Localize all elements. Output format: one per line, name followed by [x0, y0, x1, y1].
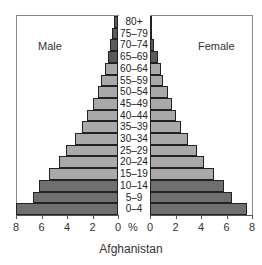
male-tick	[16, 215, 17, 219]
female-bar	[150, 51, 158, 63]
female-bar	[150, 156, 204, 168]
male-tick	[42, 215, 43, 219]
female-bar	[150, 180, 224, 192]
female-tick-label: 2	[168, 221, 184, 233]
male-tick-label: 6	[34, 221, 50, 233]
female-bar	[150, 133, 188, 145]
male-bar	[16, 203, 118, 215]
male-bar	[101, 75, 118, 87]
age-group-label: 20–24	[118, 156, 150, 168]
female-tick	[150, 215, 151, 219]
percent-unit-label: %	[128, 221, 138, 233]
age-group-label: 70–74	[118, 39, 150, 51]
female-tick	[201, 215, 202, 219]
age-group-label: 65–69	[118, 51, 150, 63]
age-group-label: 40–44	[118, 110, 150, 122]
female-bar	[150, 86, 168, 98]
female-bar	[150, 192, 232, 204]
female-bar	[150, 145, 197, 157]
female-bar	[150, 203, 247, 215]
female-bar	[150, 39, 154, 51]
male-bar	[59, 156, 118, 168]
male-tick	[118, 215, 119, 219]
female-bar	[150, 75, 163, 87]
female-bar	[150, 168, 214, 180]
age-group-label: 45–49	[118, 98, 150, 110]
female-bar	[150, 63, 161, 75]
female-bar	[150, 16, 152, 28]
female-bar	[150, 28, 152, 40]
male-tick	[93, 215, 94, 219]
female-tick	[252, 215, 253, 219]
male-bar	[82, 121, 118, 133]
age-group-label: 25–29	[118, 145, 150, 157]
female-tick-label: 8	[244, 221, 260, 233]
age-group-label: 50–54	[118, 86, 150, 98]
age-group-label: 10–14	[118, 180, 150, 192]
female-tick	[227, 215, 228, 219]
male-bar	[49, 168, 118, 180]
male-bar	[105, 63, 118, 75]
male-tick-label: 0	[110, 221, 126, 233]
age-group-label: 80+	[118, 16, 150, 28]
male-bar	[98, 86, 118, 98]
female-tick-label: 4	[193, 221, 209, 233]
female-bar	[150, 98, 172, 110]
chart-title: Afghanistan	[0, 242, 262, 256]
male-bar	[33, 192, 118, 204]
male-bar	[66, 145, 118, 157]
male-bar	[93, 98, 119, 110]
age-group-label: 0–4	[118, 203, 150, 215]
female-tick-label: 0	[142, 221, 158, 233]
female-tick	[176, 215, 177, 219]
age-group-label: 30–34	[118, 133, 150, 145]
male-bar	[75, 133, 118, 145]
age-group-label: 5–9	[118, 192, 150, 204]
male-bar	[110, 39, 118, 51]
male-bar	[39, 180, 118, 192]
male-tick-label: 2	[85, 221, 101, 233]
male-bar	[87, 110, 118, 122]
male-bar	[108, 51, 118, 63]
female-bar	[150, 121, 181, 133]
age-group-label: 55–59	[118, 75, 150, 87]
female-tick-label: 6	[219, 221, 235, 233]
female-bar	[150, 110, 176, 122]
male-tick-label: 4	[59, 221, 75, 233]
age-group-label: 15–19	[118, 168, 150, 180]
age-group-label: 60–64	[118, 63, 150, 75]
male-tick	[67, 215, 68, 219]
male-label: Male	[38, 40, 62, 52]
male-tick-label: 8	[8, 221, 24, 233]
age-group-label: 35–39	[118, 121, 150, 133]
female-label: Female	[198, 40, 235, 52]
age-group-label: 75–79	[118, 28, 150, 40]
